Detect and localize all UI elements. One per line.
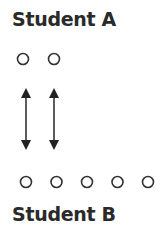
student-a-circle xyxy=(18,54,29,65)
student-b-circle xyxy=(112,177,123,188)
double-arrow xyxy=(21,88,31,150)
student-b-circle xyxy=(143,177,154,188)
student-a-circle xyxy=(49,54,60,65)
student-b-circle xyxy=(82,177,93,188)
double-arrow xyxy=(49,88,59,150)
student-a-circles xyxy=(18,54,60,65)
arrow-head-down xyxy=(21,140,31,150)
student-b-circles xyxy=(21,177,154,188)
student-b-label: Student B xyxy=(12,203,116,225)
arrows xyxy=(21,88,59,150)
student-b-circle xyxy=(21,177,32,188)
arrow-head-up xyxy=(49,88,59,98)
arrow-head-up xyxy=(21,88,31,98)
student-b-circle xyxy=(51,177,62,188)
arrow-head-down xyxy=(49,140,59,150)
